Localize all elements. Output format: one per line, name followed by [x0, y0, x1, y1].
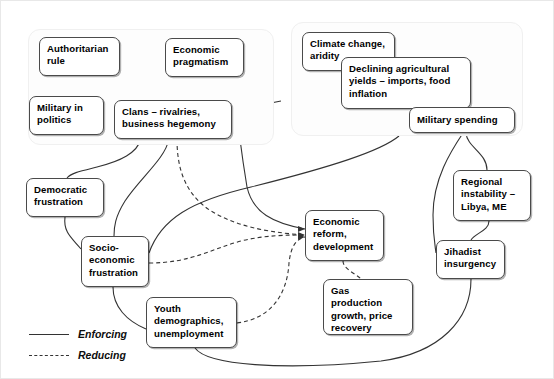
- edge-regional-to-jihadist: [471, 221, 489, 240]
- node-jihadist-insurgency[interactable]: Jihadist insurgency: [436, 240, 505, 279]
- edge-youth-to-economic-reform: [237, 237, 305, 323]
- legend-swatch-dashed: [29, 355, 69, 356]
- edge-spending-to-regional: [466, 133, 487, 170]
- node-economic-pragmatism[interactable]: Economic pragmatism: [165, 38, 244, 77]
- arrowhead-group: [298, 226, 305, 240]
- node-clans-rivalries[interactable]: Clans – rivalries, business hegemony: [114, 100, 232, 139]
- arrowhead-economic-reform-a: [298, 226, 305, 232]
- edge-economic-reform-to-gas: [343, 261, 361, 279]
- arrowhead-economic-reform-c: [298, 234, 305, 240]
- legend-swatch-solid: [29, 334, 69, 335]
- node-declining-yields[interactable]: Declining agricultural yields – imports,…: [341, 57, 471, 109]
- node-democratic-frustration[interactable]: Democratic frustration: [26, 178, 104, 217]
- node-socio-economic-frustration[interactable]: Socio- economic frustration: [81, 236, 149, 287]
- node-military-spending[interactable]: Military spending: [409, 107, 515, 133]
- node-military-in-politics[interactable]: Military in politics: [29, 96, 104, 135]
- edge-clans-to-socio: [114, 139, 169, 236]
- node-regional-instability[interactable]: Regional instability – Libya, ME: [453, 170, 531, 221]
- diagram-canvas: Authoritarian rule Economic pragmatism M…: [0, 0, 554, 379]
- arrowhead-economic-reform-b: [298, 232, 305, 238]
- legend-label-reducing: Reducing: [78, 349, 126, 361]
- node-gas-production[interactable]: Gas production growth, price recovery: [323, 279, 413, 335]
- legend-label-enforcing: Enforcing: [78, 328, 127, 340]
- edge-clans-to-economic-reform: [177, 139, 305, 235]
- node-authoritarian-rule[interactable]: Authoritarian rule: [39, 37, 120, 76]
- node-economic-reform[interactable]: Economic reform, development: [305, 210, 384, 261]
- edge-socio-to-youth: [113, 287, 146, 329]
- edge-socio-to-economic-reform: [149, 235, 305, 263]
- node-youth-demographics[interactable]: Youth demographics, unemployment: [146, 297, 237, 348]
- legend-item-enforcing: Enforcing: [29, 328, 127, 340]
- legend-item-reducing: Reducing: [29, 349, 126, 361]
- edge-democratic-to-socio: [65, 217, 81, 249]
